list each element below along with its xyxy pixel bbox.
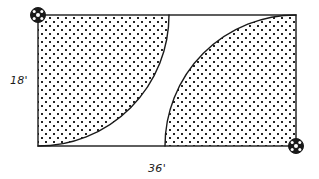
arc-center-marker-top-left [31,8,46,23]
geometry-figure: 18' 36' [0,0,319,179]
arc-center-marker-bottom-right [289,139,304,154]
diagram-root: 18' 36' [0,0,319,179]
height-dimension-label: 18' [10,74,28,87]
width-dimension-label: 36' [148,162,166,175]
